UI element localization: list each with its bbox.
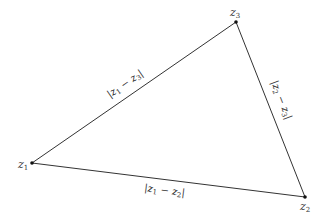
edge-z1-z3 [32,22,236,163]
vertex-z1-label: z1 [17,158,28,172]
vertex-z3-dot [234,20,238,24]
edge-z1-z3-label: |z1 − z3| [105,67,146,101]
vertex-z2-label: z2 [299,200,310,214]
triangle-diagram: z1 z2 z3 |z1 − z3| |z2 − z3| |z1 − z2| [0,0,326,218]
edge-z1-z2-label: |z1 − z2| [144,182,186,200]
vertex-z1-dot [30,161,34,165]
edge-z2-z3 [236,22,305,197]
vertex-z2-dot [303,195,307,199]
edge-z2-z3-label: |z2 − z3| [267,79,294,122]
vertex-z3-label: z3 [229,6,240,20]
